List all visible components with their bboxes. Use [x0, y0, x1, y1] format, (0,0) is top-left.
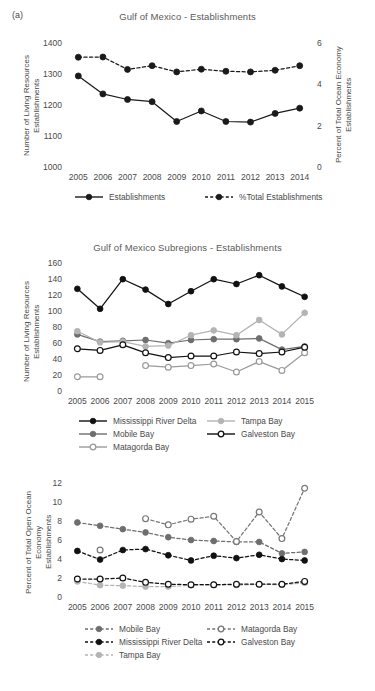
x-axis-tick: 2015: [288, 396, 322, 406]
data-point: [74, 548, 80, 554]
legend-key-icon: [206, 416, 236, 426]
data-point: [125, 66, 131, 72]
data-point: [234, 369, 240, 375]
data-point: [165, 301, 171, 307]
plot-svg: [66, 264, 316, 392]
data-point: [223, 68, 229, 74]
chart-panel-subregions-establishments: Gulf of Mexico Subregions - Establishmen…: [0, 236, 375, 468]
legend-key: [206, 624, 236, 634]
chart-legend: Mississippi River DeltaTampa BayMobile B…: [78, 416, 368, 455]
legend-row: Mobile BayGalveston Bay: [78, 429, 368, 439]
data-point: [302, 310, 308, 316]
data-point: [165, 343, 171, 349]
data-point: [165, 581, 171, 587]
data-point: [100, 91, 106, 97]
legend-item-tampa-bay[interactable]: Tampa Bay: [84, 650, 206, 660]
legend-key-icon: [84, 637, 114, 647]
data-point: [256, 272, 262, 278]
data-point: [143, 516, 149, 522]
legend-item-matagorda-bay[interactable]: Matagorda Bay: [206, 624, 328, 634]
data-point: [279, 284, 285, 290]
chart-legend: Establishments%Total Establishments: [74, 192, 354, 205]
data-point: [120, 276, 126, 282]
data-point: [165, 522, 171, 528]
data-point: [302, 344, 308, 350]
data-point: [74, 346, 80, 352]
data-point: [97, 306, 103, 312]
legend-item-galveston-bay[interactable]: Galveston Bay: [206, 637, 328, 647]
legend-item-mississippi-river-delta[interactable]: Mississippi River Delta: [78, 416, 206, 426]
legend-key-icon: [74, 192, 104, 202]
legend-key-icon: [78, 442, 108, 452]
data-point: [149, 63, 155, 69]
data-point: [234, 281, 240, 287]
y-axis-tick: 100: [28, 306, 62, 316]
legend-item-establishments[interactable]: Establishments: [74, 192, 204, 202]
y-axis-tick: 160: [28, 258, 62, 268]
legend-row: Mississippi River DeltaGalveston Bay: [84, 637, 374, 647]
legend-item-matagorda-bay[interactable]: Matagorda Bay: [78, 442, 206, 452]
legend-label: Mississippi River Delta: [119, 637, 202, 647]
y-axis-tick: 0: [28, 592, 62, 602]
data-point: [211, 276, 217, 282]
data-point: [248, 69, 254, 75]
data-point: [279, 368, 285, 374]
x-axis-tick: 2014: [283, 172, 317, 182]
legend-item--total-establishments[interactable]: %Total Establishments: [204, 192, 334, 202]
y-axis-tick: 2: [28, 573, 62, 583]
legend-item-galveston-bay[interactable]: Galveston Bay: [206, 429, 334, 439]
plot-area: [66, 264, 316, 392]
data-point: [302, 558, 308, 564]
y-axis-tick: 6: [28, 535, 62, 545]
data-point: [143, 546, 149, 552]
data-point: [188, 516, 194, 522]
data-point: [120, 583, 126, 589]
legend-label: %Total Establishments: [239, 192, 322, 202]
data-point: [74, 374, 80, 380]
chart-title: Gulf of Mexico Subregions - Establishmen…: [0, 242, 375, 253]
y-axis-tick: 10: [28, 497, 62, 507]
y-axis-tick: 120: [28, 290, 62, 300]
data-point: [143, 344, 149, 350]
data-point: [97, 523, 103, 529]
series-line-matagorda-bay: [146, 488, 305, 541]
data-point: [211, 513, 217, 519]
y-axis-tick: 40: [28, 354, 62, 364]
legend-item-tampa-bay[interactable]: Tampa Bay: [206, 416, 334, 426]
legend-item-mobile-bay[interactable]: Mobile Bay: [84, 624, 206, 634]
legend-label: Galveston Bay: [241, 637, 295, 647]
data-point: [188, 353, 194, 359]
legend-key-icon: [206, 429, 236, 439]
data-point: [174, 119, 180, 125]
legend-key: [78, 416, 108, 426]
y-axis-tick: 1200: [28, 100, 62, 110]
data-point: [120, 547, 126, 553]
legend-item-mobile-bay[interactable]: Mobile Bay: [78, 429, 206, 439]
data-point: [256, 351, 262, 357]
y-axis-tick: 0: [28, 386, 62, 396]
data-point: [256, 539, 262, 545]
y-axis-tick: 20: [28, 370, 62, 380]
data-point: [279, 536, 285, 542]
data-point: [143, 350, 149, 356]
legend-label: Matagorda Bay: [113, 442, 169, 452]
legend-key: [78, 429, 108, 439]
data-point: [97, 547, 103, 553]
data-point: [279, 556, 285, 562]
y-axis-tick: 1100: [28, 131, 62, 141]
secondary-y-axis-tick: 4: [317, 79, 337, 89]
data-point: [143, 287, 149, 293]
data-point: [234, 539, 240, 545]
legend-row: Mississippi River DeltaTampa Bay: [78, 416, 368, 426]
y-axis-tick: 1400: [28, 38, 62, 48]
data-point: [75, 73, 81, 79]
data-point: [211, 538, 217, 544]
legend-label: Galveston Bay: [241, 429, 295, 439]
data-point: [256, 552, 262, 558]
data-point: [188, 537, 194, 543]
plot-area: [66, 484, 316, 598]
legend-item-mississippi-river-delta[interactable]: Mississippi River Delta: [84, 637, 206, 647]
legend-label: Matagorda Bay: [241, 624, 297, 634]
data-point: [188, 363, 194, 369]
data-point: [165, 355, 171, 361]
